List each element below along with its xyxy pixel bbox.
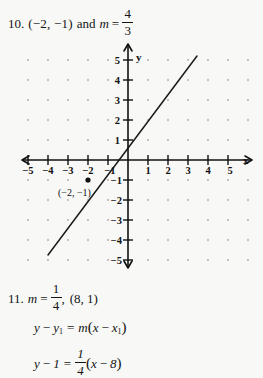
y-tick-label-4: 4 xyxy=(115,75,121,86)
worked-x: x xyxy=(91,357,97,370)
formula-x-subscript: 1 xyxy=(118,327,122,336)
x-tick-label-neg3: −3 xyxy=(62,165,73,176)
x-axis-label: x xyxy=(243,154,249,166)
y-tick-label-1: 1 xyxy=(115,135,120,146)
problem-11-comma: , xyxy=(62,292,65,305)
problem-11-slope-denominator: 4 xyxy=(51,299,62,313)
worked-slope-numerator: 1 xyxy=(75,347,86,361)
formula-x: x xyxy=(93,321,99,334)
y-tick-label-neg3: −3 xyxy=(111,215,122,226)
problem-10-statement: 10. (−2, −1) and m = 4 3 xyxy=(8,8,133,38)
y-tick-label-3: 3 xyxy=(115,95,120,106)
y-axis-label: y xyxy=(136,51,142,63)
y-tick-label-neg2: −2 xyxy=(111,195,122,206)
problem-11-number: 11. xyxy=(8,292,24,305)
worked-slope-denominator: 4 xyxy=(75,364,86,378)
worked-close-paren: ) xyxy=(117,356,122,371)
y-tick-label-2: 2 xyxy=(115,115,120,126)
y-tick-label-neg1: −1 xyxy=(111,175,122,186)
problem-10-and-text: and xyxy=(77,17,96,30)
formula-x1: x1 xyxy=(112,321,122,334)
plotted-point xyxy=(85,177,90,182)
problem-11-equals: = xyxy=(40,292,47,305)
formula-equals: = xyxy=(67,321,74,334)
worked-slope-fraction: 1 4 xyxy=(75,347,86,377)
x-tick-label-neg2: −2 xyxy=(82,165,93,176)
formula-m: m xyxy=(78,321,87,334)
x-tick-label-3: 3 xyxy=(185,165,190,176)
formula-y1: y1 xyxy=(53,321,63,334)
problem-11-statement: 11. m = 1 4 , (8, 1) xyxy=(8,283,98,313)
worked-minus: − xyxy=(43,357,50,370)
problem-10-slope-fraction: 4 3 xyxy=(122,7,133,37)
problem-10-m-symbol: m xyxy=(99,17,108,30)
formula-y-subscript: 1 xyxy=(59,327,63,336)
problem-11-slope-numerator: 1 xyxy=(51,282,62,296)
x-tick-label-neg4: −4 xyxy=(42,165,54,176)
worked-y: y xyxy=(34,357,40,370)
formula-y: y xyxy=(34,321,40,334)
problem-11-point: (8, 1) xyxy=(70,292,98,305)
problem-10-number: 10. xyxy=(8,17,24,30)
worked-one: 1 xyxy=(53,357,60,370)
formula-close-paren: ) xyxy=(122,320,127,335)
plotted-point-label: (−2, −1) xyxy=(58,187,91,199)
x-axis xyxy=(22,155,252,165)
worked-equals: = xyxy=(64,357,71,370)
worked-substitution-line: y − 1 = 1 4 ( x − 8 ) xyxy=(34,348,122,378)
y-axis xyxy=(123,44,133,268)
formula-minus: − xyxy=(43,321,50,334)
problem-10-slope-numerator: 4 xyxy=(122,7,133,21)
coordinate-graph: y x −5 −4 −3 −2 −1 1 2 3 4 5 5 4 3 2 1 −… xyxy=(0,36,263,272)
x-tick-label-4: 4 xyxy=(205,165,211,176)
problem-10-point: (−2, −1) xyxy=(28,17,72,30)
worked-minus-2: − xyxy=(100,357,107,370)
x-tick-label-neg5: −5 xyxy=(22,165,33,176)
x-tick-label-1: 1 xyxy=(145,165,150,176)
point-slope-formula: y − y1 = m ( x − x1 ) xyxy=(34,320,127,335)
plotted-line xyxy=(48,56,197,255)
formula-minus-2: − xyxy=(101,321,108,334)
problem-11-slope-fraction: 1 4 xyxy=(51,282,62,312)
x-tick-label-5: 5 xyxy=(227,165,232,176)
y-tick-label-neg5: −5 xyxy=(111,255,122,266)
problem-10-equals: = xyxy=(112,17,119,30)
problem-11-m-symbol: m xyxy=(28,292,37,305)
y-tick-label-neg4: −4 xyxy=(111,235,123,246)
x-tick-label-2: 2 xyxy=(165,165,170,176)
y-tick-label-5: 5 xyxy=(115,55,120,66)
